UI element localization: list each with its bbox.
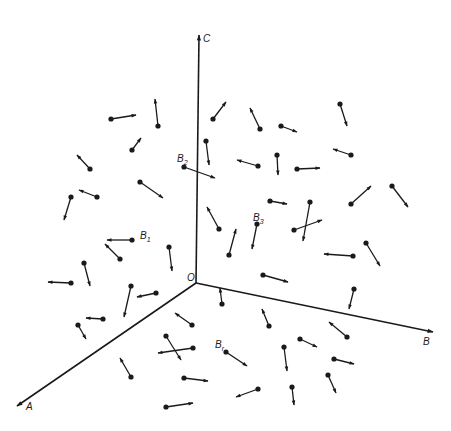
vector-tail-dot xyxy=(255,386,260,391)
vector xyxy=(219,288,224,307)
vector-tail-dot xyxy=(189,322,194,327)
vector-tail-dot xyxy=(294,166,299,171)
vector-tail-dot xyxy=(75,322,80,327)
vector xyxy=(64,194,74,220)
vector-arrow xyxy=(166,403,193,407)
vector xyxy=(329,322,350,340)
vector-arrow xyxy=(334,359,354,364)
vector-field-diagram: CBAOB1B2B3Br xyxy=(0,0,451,431)
vector xyxy=(137,290,159,297)
vector xyxy=(349,286,357,309)
vector xyxy=(389,183,408,207)
vector-arrow xyxy=(184,167,215,178)
vector-arrow xyxy=(206,141,209,165)
vector-tail-dot xyxy=(281,344,286,349)
vector-arrow xyxy=(297,168,320,169)
vector-arrow xyxy=(328,375,336,393)
vector xyxy=(337,101,347,126)
vector-tail-dot xyxy=(289,384,294,389)
vector-tail-dot xyxy=(203,138,208,143)
vector-arrow xyxy=(184,378,208,381)
vector-tail-dot xyxy=(68,280,73,285)
vector-arrow xyxy=(48,282,71,283)
vector-arrow xyxy=(175,313,192,325)
vector-arrow xyxy=(262,309,269,326)
vector-arrow xyxy=(229,229,236,255)
origin-label: O xyxy=(187,272,195,283)
vector-arrow xyxy=(237,160,258,166)
vector-arrow xyxy=(340,104,347,126)
vector-arrow xyxy=(349,289,354,309)
vector xyxy=(325,372,336,393)
vector-arrow xyxy=(213,102,226,119)
vector-tail-dot xyxy=(350,253,355,258)
vector-tail-dot xyxy=(81,260,86,265)
vector-tail-dot xyxy=(348,201,353,206)
vector xyxy=(120,358,134,380)
vector-tail-dot xyxy=(87,166,92,171)
vector-tail-dot xyxy=(307,199,312,204)
vector-tail-dot xyxy=(389,183,394,188)
vector-arrow xyxy=(77,155,90,169)
vector-arrow xyxy=(303,202,310,241)
vector xyxy=(289,384,294,405)
vector-tail-dot xyxy=(363,240,368,245)
axis-label-a: A xyxy=(25,401,33,412)
vector xyxy=(324,253,356,258)
vector-arrow xyxy=(333,149,351,155)
axis-b xyxy=(196,283,433,332)
vector xyxy=(207,207,222,232)
vector-tail-dot xyxy=(278,123,283,128)
vector-arrow xyxy=(169,247,172,271)
vector-tail-dot xyxy=(297,336,302,341)
vector-tail-dot xyxy=(163,333,168,338)
vector-tail-dot xyxy=(291,227,296,232)
vector-tail-dot xyxy=(108,116,113,121)
vector-tail-dot xyxy=(325,372,330,377)
vector-arrow xyxy=(64,197,71,220)
vector-tail-dot xyxy=(210,116,215,121)
vector xyxy=(86,316,106,321)
vector-tail-dot xyxy=(128,283,133,288)
vector-arrow xyxy=(120,358,131,377)
vector-arrow xyxy=(166,336,181,360)
vector xyxy=(223,349,247,366)
vector-arrow xyxy=(137,293,156,297)
vector-arrow xyxy=(155,99,158,126)
vector-tail-dot xyxy=(129,237,134,242)
vector xyxy=(203,138,209,165)
vector-tail-dot xyxy=(190,345,195,350)
vector-arrow xyxy=(392,186,408,207)
vector-tail-dot xyxy=(117,256,122,261)
vector xyxy=(108,115,136,122)
vector xyxy=(75,322,86,339)
vector-label-b3: B3 xyxy=(253,212,264,225)
vector-tail-dot xyxy=(137,179,142,184)
vector xyxy=(175,313,195,328)
vector-tail-dot xyxy=(166,244,171,249)
vector-tail-dot xyxy=(219,301,224,306)
vector xyxy=(124,283,134,317)
vector xyxy=(79,190,100,200)
vector-arrow xyxy=(236,389,258,397)
vector xyxy=(48,280,74,285)
vector-tail-dot xyxy=(68,194,73,199)
vector xyxy=(77,155,93,172)
vector-tail-dot xyxy=(94,194,99,199)
vector-arrow xyxy=(84,263,90,286)
vector-label-br: Br xyxy=(215,339,225,352)
vector-arrow xyxy=(207,207,219,229)
vector xyxy=(297,336,317,347)
vector xyxy=(236,386,261,397)
vector-arrow xyxy=(351,186,371,204)
vector-arrow xyxy=(105,244,120,259)
vector xyxy=(303,199,313,241)
axis-c xyxy=(196,35,199,283)
axis-label-c: C xyxy=(203,33,211,44)
vector-arrow xyxy=(294,220,322,230)
vector-tail-dot xyxy=(255,163,260,168)
vector-arrow xyxy=(277,155,278,175)
vector xyxy=(166,244,172,271)
vector xyxy=(105,244,123,262)
vector-tail-dot xyxy=(100,316,105,321)
